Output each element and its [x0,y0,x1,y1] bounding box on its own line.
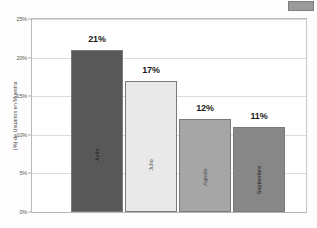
chart-plot-area: Junio21%Julio17%Agosto12%Septiembre11% [31,18,307,213]
y-axis-tick-label: 25% [17,16,28,22]
y-axis: 0%5%10%15%20%25% [0,18,31,214]
gridline-0 [32,212,306,213]
chart-page: (%) de Usuarios en Muestra 0%5%10%15%20%… [0,0,317,228]
bars-container: Junio21%Julio17%Agosto12%Septiembre11% [32,19,306,212]
y-axis-tick-label: 0% [19,209,27,215]
bar-value-label: 17% [142,65,159,75]
y-axis-tick-label: 10% [17,132,28,138]
bar-junio[interactable]: Junio [71,50,123,212]
bar-septiembre[interactable]: Septiembre [233,127,285,212]
clipped-header-strip [0,0,317,9]
bar-category-label: Agosto [202,169,208,186]
y-axis-tick-label: 15% [17,93,28,99]
bar-value-label: 12% [196,103,213,113]
bar-category-label: Julio [148,159,154,171]
bar-agosto[interactable]: Agosto [179,119,231,212]
bar-value-label: 21% [88,34,105,44]
y-axis-tick-label: 5% [19,170,27,176]
bar-category-label: Junio [94,148,100,161]
corner-box-icon [288,1,314,11]
bar-category-label: Septiembre [256,166,262,195]
y-axis-tick-label: 20% [17,55,28,61]
bar-value-label: 11% [251,111,268,121]
bar-julio[interactable]: Julio [125,81,177,212]
